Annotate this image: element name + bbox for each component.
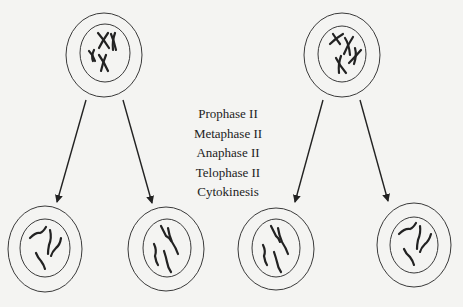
arrow-icon [360,100,388,201]
chromatid-icon [420,234,431,252]
parent-cell-left [66,13,142,97]
chromatid-icon [274,252,281,272]
phase-label-telophase-ii: Telophase II [178,163,278,183]
daughter-cell-1 [8,206,82,292]
chromatid-icon [164,251,171,272]
chromatid-icon [168,228,178,254]
phase-list: Prophase II Metaphase II Anaphase II Tel… [178,104,278,202]
cell-membrane [66,13,142,97]
daughter-cell-2 [128,207,204,291]
cell-membrane [377,203,451,287]
chromosome-x-icon [344,37,353,55]
phase-label-prophase-ii: Prophase II [178,104,278,124]
chromatid-icon [48,230,51,254]
chromosome-x-icon [349,48,361,64]
chromosome-x-icon [330,34,343,44]
chromatid-icon [399,223,416,234]
chromosome-x-icon [89,50,95,61]
cell-membrane [128,207,204,291]
chromatid-icon [36,253,45,269]
chromosome-x-icon [111,33,116,50]
chromosome-x-icon [98,33,109,48]
arrow-icon [57,100,86,202]
parent-cell-right [304,13,380,97]
phase-label-metaphase-ii: Metaphase II [178,124,278,144]
chromosome-x-icon [99,55,108,71]
chromatid-icon [51,238,61,256]
chromosome-x-icon [336,56,346,73]
daughter-cell-4 [377,203,451,287]
daughter-cell-3 [238,208,314,290]
cell-membrane [238,208,314,290]
chromatid-icon [417,226,420,249]
arrow-icon [295,100,323,202]
phase-label-cytokinesis: Cytokinesis [178,182,278,202]
phase-label-anaphase-ii: Anaphase II [178,143,278,163]
chromatid-icon [263,245,267,265]
chromatid-icon [154,244,158,265]
nucleus [80,24,130,82]
arrow-icon [123,100,152,203]
chromatid-icon [30,227,46,238]
nucleus [252,219,300,277]
chromatid-icon [404,249,414,265]
